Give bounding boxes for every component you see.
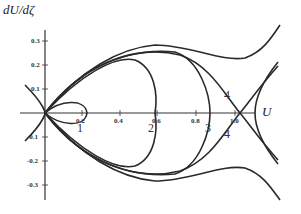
curve-label-2: 2 [148,121,154,136]
curve-label-1: 1 [77,121,83,136]
x-tick-0.4: 0.4 [114,117,123,125]
x-tick-0.8: 0.8 [191,117,200,125]
y-tick-neg-0.2: -0.2 [27,157,38,165]
y-tick-0.3: 0.3 [31,37,40,45]
x-tick-1.0: 1.0 [230,117,239,125]
y-tick-neg-0.1: -0.1 [27,133,38,141]
curve-4-upper [45,52,278,160]
x-axis-label: U [262,104,271,120]
curve-label-4-upper: 4 [224,88,230,103]
y-tick-0.2: 0.2 [31,61,40,69]
curve-outer-upper [25,25,280,113]
curve-label-4-lower: 4 [224,127,230,142]
y-axis-label: dU/dζ [3,2,34,18]
phase-plot [0,0,301,214]
curve-label-3: 3 [205,121,211,136]
y-tick-neg-0.3: -0.3 [27,181,38,189]
y-tick-0.1: 0.1 [31,85,40,93]
